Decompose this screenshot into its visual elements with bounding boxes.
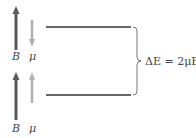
energy-gap-label: ΔE = 2μB: [145, 55, 196, 68]
curly-brace: [133, 27, 141, 95]
lower-state-arrows: B μ: [11, 72, 36, 135]
b-field-arrowhead-lower: [13, 72, 20, 80]
mu-arrowhead-upper: [29, 39, 35, 47]
b-label-lower: B: [11, 122, 20, 135]
mu-label-lower: μ: [29, 122, 36, 135]
b-label-upper: B: [11, 50, 20, 63]
upper-state-arrows: B μ: [11, 6, 36, 63]
mu-label-upper: μ: [29, 50, 36, 63]
energy-diagram: B μ B μ ΔE = 2μB: [0, 0, 196, 138]
b-field-arrowhead-upper: [13, 6, 20, 14]
mu-arrowhead-lower: [29, 72, 35, 80]
